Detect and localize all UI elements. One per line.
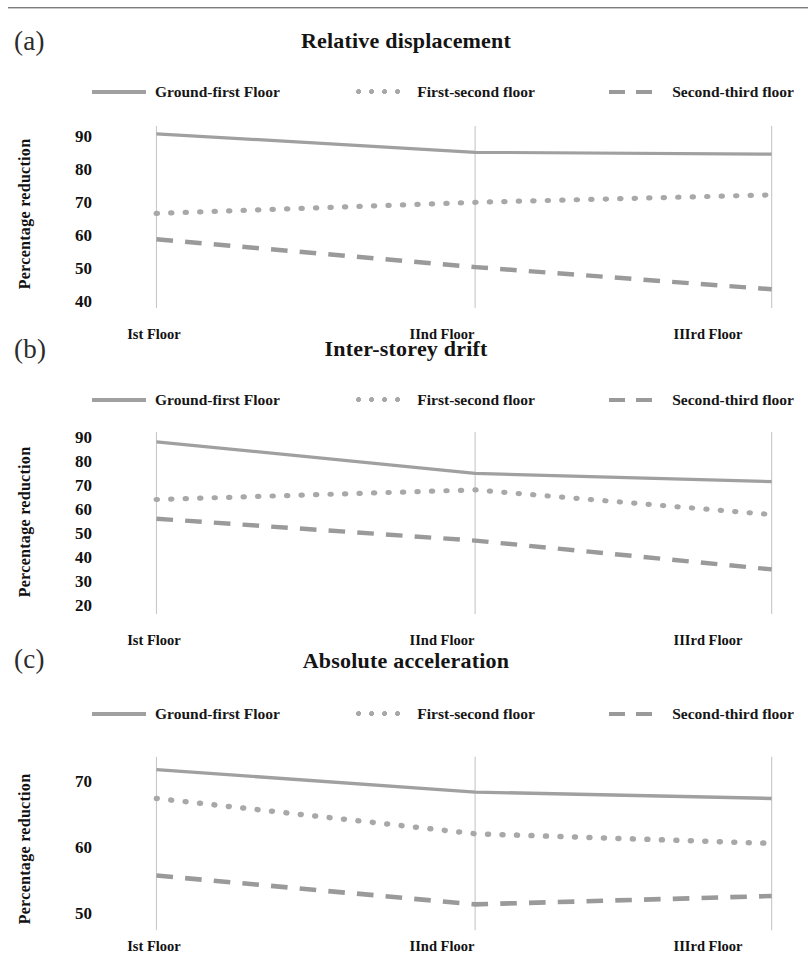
- legend-label-ground-first: Ground-first Floor: [155, 705, 280, 723]
- chart-svg-b: [110, 422, 796, 628]
- y-tick-b-6: 30: [48, 572, 92, 592]
- legend-item-second-third[interactable]: Second-third floor: [609, 705, 794, 723]
- y-tick-a-4: 50: [48, 259, 92, 279]
- legend-item-ground-first[interactable]: Ground-first Floor: [92, 391, 280, 409]
- legend-label-first-second: First-second floor: [417, 391, 535, 409]
- series-line-second-third-a: [156, 239, 771, 289]
- chart-title-c: Absolute acceleration: [0, 648, 812, 674]
- plot-area-b: [110, 422, 796, 628]
- series-line-second-third-b: [156, 519, 771, 570]
- series-line-first-second-a: [156, 195, 771, 214]
- y-tick-a-3: 60: [48, 226, 92, 246]
- y-tick-a-2: 70: [48, 193, 92, 213]
- plot-wrap-a: 90 80 70 60 50 40 Ist Floor IInd Floor I…: [48, 114, 802, 320]
- legend-label-ground-first: Ground-first Floor: [155, 391, 280, 409]
- legend-a: Ground-first Floor First-second floor Se…: [92, 80, 794, 104]
- legend-item-second-third[interactable]: Second-third floor: [609, 83, 794, 101]
- line-dotted-icon: [354, 709, 408, 719]
- line-dotted-icon: [354, 87, 408, 97]
- line-solid-icon: [92, 395, 146, 405]
- chart-svg-c: [110, 742, 796, 964]
- legend-item-ground-first[interactable]: Ground-first Floor: [92, 705, 280, 723]
- series-line-ground-first-a: [156, 134, 771, 154]
- chart-title-a: Relative displacement: [0, 28, 812, 54]
- y-axis-title-b: Percentage reduction: [10, 422, 40, 622]
- header-rule: [8, 7, 808, 9]
- legend-item-ground-first[interactable]: Ground-first Floor: [92, 83, 280, 101]
- y-tick-b-1: 80: [48, 452, 92, 472]
- legend-label-first-second: First-second floor: [417, 705, 535, 723]
- y-axis-title-text-b: Percentage reduction: [16, 447, 34, 598]
- y-tick-b-4: 50: [48, 524, 92, 544]
- legend-item-first-second[interactable]: First-second floor: [354, 83, 535, 101]
- x-tick-c-2: IIIrd Floor: [674, 938, 743, 955]
- plot-wrap-b: 90 80 70 60 50 40 30 20 Ist Floor IInd F…: [48, 422, 802, 628]
- y-tick-b-3: 60: [48, 500, 92, 520]
- legend-label-first-second: First-second floor: [417, 83, 535, 101]
- y-tick-c-1: 60: [48, 838, 92, 858]
- line-solid-icon: [92, 709, 146, 719]
- y-axis-title-c: Percentage reduction: [10, 744, 40, 954]
- legend-item-second-third[interactable]: Second-third floor: [609, 391, 794, 409]
- legend-b: Ground-first Floor First-second floor Se…: [92, 388, 794, 412]
- y-tick-a-1: 80: [48, 160, 92, 180]
- plot-wrap-c: 70 60 50 Ist Floor IInd Floor IIIrd Floo…: [48, 742, 802, 964]
- y-tick-b-5: 40: [48, 548, 92, 568]
- legend-c: Ground-first Floor First-second floor Se…: [92, 702, 794, 726]
- plot-area-a: [110, 114, 796, 320]
- y-axis-title-text-c: Percentage reduction: [16, 774, 34, 925]
- legend-label-second-third: Second-third floor: [672, 391, 794, 409]
- chart-panel-b: (b) Inter-storey drift Ground-first Floo…: [0, 322, 812, 628]
- chart-svg-a: [110, 114, 796, 320]
- legend-item-first-second[interactable]: First-second floor: [354, 391, 535, 409]
- y-tick-b-7: 20: [48, 596, 92, 616]
- y-tick-b-2: 70: [48, 476, 92, 496]
- y-tick-c-0: 70: [48, 772, 92, 792]
- line-dotted-icon: [354, 395, 408, 405]
- y-tick-b-0: 90: [48, 428, 92, 448]
- legend-item-first-second[interactable]: First-second floor: [354, 705, 535, 723]
- chart-title-b: Inter-storey drift: [0, 336, 812, 362]
- y-tick-a-5: 40: [48, 292, 92, 312]
- legend-label-second-third: Second-third floor: [672, 705, 794, 723]
- x-tick-c-0: Ist Floor: [127, 938, 181, 955]
- legend-label-second-third: Second-third floor: [672, 83, 794, 101]
- y-tick-a-0: 90: [48, 127, 92, 147]
- legend-label-ground-first: Ground-first Floor: [155, 83, 280, 101]
- x-tick-c-1: IInd Floor: [410, 938, 475, 955]
- line-solid-icon: [92, 87, 146, 97]
- line-dashed-icon: [609, 395, 663, 405]
- series-line-second-third-c: [156, 876, 771, 905]
- y-axis-title-a: Percentage reduction: [10, 114, 40, 314]
- line-dashed-icon: [609, 709, 663, 719]
- plot-area-c: [110, 742, 796, 964]
- series-line-first-second-b: [156, 490, 771, 515]
- series-line-ground-first-c: [156, 770, 771, 799]
- series-line-first-second-c: [156, 798, 771, 843]
- y-tick-c-2: 50: [48, 904, 92, 924]
- line-dashed-icon: [609, 87, 663, 97]
- y-axis-title-text-a: Percentage reduction: [16, 139, 34, 290]
- chart-panel-a: (a) Relative displacement Ground-first F…: [0, 14, 812, 320]
- series-line-ground-first-b: [156, 442, 771, 482]
- chart-panel-c: (c) Absolute acceleration Ground-first F…: [0, 632, 812, 964]
